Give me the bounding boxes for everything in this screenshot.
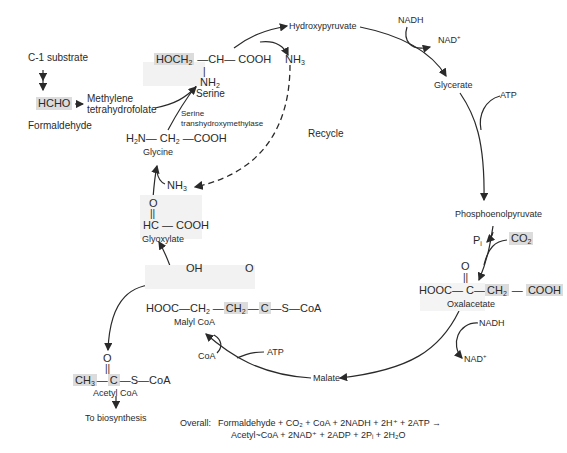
glyoxylate-double-bond: || xyxy=(150,208,155,219)
serine-backbone: —CH— COOH xyxy=(197,53,271,65)
malyl-coa-label: Malyl CoA xyxy=(174,317,215,328)
oxaloacetate-hooc-c: HOOC— C— xyxy=(419,284,485,296)
c1-substrate-label: C-1 substrate xyxy=(28,52,88,63)
nadh-top-label: NADH xyxy=(398,15,424,26)
serine-hoch: HOCH xyxy=(156,53,188,65)
nad-top-label: NAD+ xyxy=(438,35,461,46)
oxaloacetate-cooh: COOH xyxy=(526,284,563,296)
hcho-formula: HCHO xyxy=(36,97,72,110)
malyl-ch2b: CH xyxy=(226,302,242,314)
pi-label: Pi xyxy=(473,234,482,247)
nad-top-sup: + xyxy=(457,34,461,40)
oxaloacetate-double-bond: || xyxy=(463,272,468,283)
acetyl-s-coa: —S—CoA xyxy=(120,374,171,386)
atp-bottom-label: ATP xyxy=(267,347,284,358)
malate-label: Malate xyxy=(313,373,340,384)
enzyme-line2: transhydroxymethylase xyxy=(181,118,263,129)
serine-hoch-sub: 2 xyxy=(188,59,192,66)
co2-formula: CO2 xyxy=(509,232,533,245)
malyl-ch2b-sub: 2 xyxy=(242,308,246,315)
nh3-mid-text: NH xyxy=(167,179,183,191)
malyl-ch2a-sub: 2 xyxy=(206,308,210,315)
atp-right-label: ATP xyxy=(500,90,517,101)
nad-bottom-sup: + xyxy=(483,353,487,359)
malyl-oh: OH xyxy=(186,262,203,275)
glycine-h: H xyxy=(126,132,134,144)
co2-sub: 2 xyxy=(528,238,532,245)
acetyl-ch3: CH xyxy=(75,374,91,386)
oxaloacetate-ch2-sub: 2 xyxy=(503,290,507,297)
acetyl-c: C xyxy=(108,374,120,386)
glycerate-label: Glycerate xyxy=(434,80,473,91)
nh3-recycled: NH3 xyxy=(167,179,187,192)
recycle-label: Recycle xyxy=(308,128,344,139)
malyl-s-coa: —S—CoA xyxy=(271,302,322,314)
formaldehyde-label: Formaldehyde xyxy=(28,120,92,131)
glycine-cooh: —COOH xyxy=(180,132,227,144)
coa-label: CoA xyxy=(198,351,216,362)
nh3-released: NH3 xyxy=(285,53,305,66)
nh3-top-sub: 3 xyxy=(301,59,305,66)
pi-sub: i xyxy=(480,240,482,247)
oxaloacetate-formula: HOOC— C—CH2 — COOH xyxy=(419,284,563,297)
methylene-thf-line1: Methylene xyxy=(87,93,133,104)
malyl-oxygen: O xyxy=(245,262,254,275)
to-biosynthesis-label: To biosynthesis xyxy=(85,413,147,424)
glyoxylate-formula: HC — COOH xyxy=(143,219,209,232)
nad-bottom-text: NAD xyxy=(464,354,483,364)
co2-text: CO xyxy=(511,232,528,244)
nh3-top-text: NH xyxy=(285,53,301,65)
hydroxypyruvate-label: Hydroxypyruvate xyxy=(289,21,357,32)
overall-label: Overall: xyxy=(180,418,211,429)
overall-equation-line2: Acetyl~CoA + 2NAD⁺ + 2ADP + 2Pᵢ + 2H₂O xyxy=(231,430,406,441)
nh3-mid-sub: 3 xyxy=(183,185,187,192)
acetyl-double-bond: || xyxy=(105,363,110,374)
glycine-n-ch: N— CH xyxy=(138,132,176,144)
malyl-formula: HOOC—CH2 —CH2—C—S—CoA xyxy=(146,302,321,315)
serine-nh2-text: NH xyxy=(200,76,216,88)
acetyl-formula: CH3—C—S—CoA xyxy=(73,374,171,387)
methylene-thf-line2: tetrahydrofolate xyxy=(87,104,157,115)
acetyl-coa-label: Acetyl CoA xyxy=(93,388,138,399)
glyoxylate-label: Glyoxylate xyxy=(142,234,184,245)
glycine-label: Glycine xyxy=(143,147,173,158)
malyl-carbonyl-c: C xyxy=(259,302,271,314)
nadh-bottom-label: NADH xyxy=(479,318,505,329)
overall-equation-line1: Formaldehyde + CO₂ + CoA + 2NADH + 2H⁺ +… xyxy=(218,418,441,429)
pep-label: Phosphoenolpyruvate xyxy=(455,209,542,220)
nad-bottom-label: NAD+ xyxy=(464,354,487,365)
serine-label: Serine xyxy=(196,88,225,99)
oxaloacetate-label: Oxalacetate xyxy=(447,299,495,310)
glycine-formula: H2N— CH2 —COOH xyxy=(126,132,227,145)
oxaloacetate-ch2: CH xyxy=(487,284,503,296)
nad-top-text: NAD xyxy=(438,35,457,45)
serine-formula: HOCH2 —CH— COOH xyxy=(154,53,271,66)
malyl-hooc-ch: HOOC—CH xyxy=(146,302,206,314)
acetyl-ch3-sub: 3 xyxy=(91,380,95,387)
